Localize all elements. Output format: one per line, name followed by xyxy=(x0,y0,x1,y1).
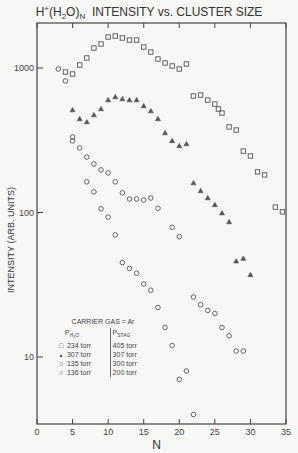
circle-marker xyxy=(213,311,218,316)
square-marker xyxy=(177,67,181,71)
legend-row: □ 234 torr 405 torr xyxy=(55,341,151,350)
legend-col-pstag: PSTAG xyxy=(110,328,151,341)
triangle-marker xyxy=(141,103,146,107)
triangle-marker-icon: ▲ xyxy=(57,352,65,358)
x-tick-label: 0 xyxy=(34,427,39,437)
circle-marker xyxy=(134,197,139,202)
legend-row: ▲ 307 torr 307 torr xyxy=(55,350,151,359)
circle-marker xyxy=(220,325,225,330)
square-marker xyxy=(156,57,160,61)
circle-marker xyxy=(127,197,132,202)
triangle-marker xyxy=(184,141,189,145)
triangle-marker xyxy=(134,97,139,101)
circle-marker xyxy=(198,302,203,307)
triangle-marker xyxy=(70,107,75,111)
circle-marker xyxy=(113,180,118,185)
circle-marker xyxy=(85,180,90,185)
square-marker xyxy=(92,46,96,50)
x-tick-label: 25 xyxy=(210,427,220,437)
circle-marker xyxy=(177,377,182,382)
triangle-marker xyxy=(120,96,125,100)
square-marker xyxy=(120,36,124,40)
triangle-marker xyxy=(106,97,111,101)
circle-marker xyxy=(141,282,146,287)
square-marker xyxy=(198,93,202,97)
square-marker xyxy=(206,98,210,102)
x-axis-label: N xyxy=(152,438,161,452)
circle-marker xyxy=(149,196,154,201)
triangle-marker xyxy=(205,195,210,199)
triangle-marker xyxy=(191,180,196,184)
square-marker xyxy=(191,94,195,98)
triangle-marker xyxy=(198,188,203,192)
triangle-marker xyxy=(248,272,253,276)
circle-marker-icon: ○ xyxy=(57,360,65,367)
legend-table: PH₂O PSTAG □ 234 torr 405 torr ▲ 307 tor… xyxy=(55,328,151,377)
x-tick-label: 30 xyxy=(245,427,255,437)
triangle-marker xyxy=(163,130,168,134)
circle-marker xyxy=(184,369,189,374)
x-tick-label: 10 xyxy=(103,427,113,437)
circle-marker xyxy=(170,225,175,230)
triangle-marker xyxy=(170,138,175,142)
circle-marker xyxy=(99,207,104,212)
circle-marker xyxy=(106,171,111,176)
square-marker xyxy=(99,42,103,46)
square-marker xyxy=(85,56,89,60)
y-tick-label: 100 xyxy=(19,208,34,218)
circle-marker xyxy=(205,308,210,313)
triangle-marker xyxy=(212,202,217,206)
square-marker xyxy=(255,170,259,174)
circle-marker xyxy=(134,271,139,276)
circle-marker xyxy=(92,162,97,167)
circle-marker xyxy=(177,234,182,239)
circle-marker xyxy=(149,288,154,293)
triangle-marker xyxy=(77,116,82,120)
y-axis-label: INTENSITY (ARB. UNITS) xyxy=(6,187,16,293)
circle-marker xyxy=(227,334,232,339)
square-marker xyxy=(142,45,146,49)
circle-marker xyxy=(156,206,161,211)
circle-marker xyxy=(191,412,196,417)
square-marker xyxy=(184,62,188,66)
circle-marker xyxy=(156,305,161,310)
triangle-marker xyxy=(84,119,89,123)
x-tick-label: 35 xyxy=(281,427,291,437)
square-marker xyxy=(106,35,110,39)
legend: CARRIER GAS = Ar PH₂O PSTAG □ 234 torr 4… xyxy=(55,318,151,377)
triangle-marker xyxy=(241,256,246,260)
axes: 05101520253035101001000NINTENSITY (ARB. … xyxy=(6,23,291,452)
circle-marker xyxy=(141,198,146,203)
x-tick-label: 15 xyxy=(139,427,149,437)
square-marker xyxy=(273,205,277,209)
circle-marker xyxy=(92,190,97,195)
square-marker xyxy=(163,61,167,65)
circle-marker xyxy=(241,349,246,354)
square-marker xyxy=(248,154,252,158)
circle-marker xyxy=(191,295,196,300)
circle-marker xyxy=(170,343,175,348)
square-marker-icon: □ xyxy=(57,342,65,349)
y-tick-label: 1000 xyxy=(14,63,34,73)
triangle-marker xyxy=(219,211,224,215)
circle-marker-icon: ○ xyxy=(57,369,65,376)
circle-marker xyxy=(127,266,132,271)
triangle-marker xyxy=(155,116,160,120)
y-tick-label: 10 xyxy=(24,352,34,362)
square-marker xyxy=(280,210,284,214)
x-tick-label: 20 xyxy=(174,427,184,437)
triangle-marker xyxy=(127,97,132,101)
square-marker xyxy=(234,128,238,132)
x-tick-label: 5 xyxy=(70,427,75,437)
square-marker xyxy=(213,102,217,106)
triangle-marker xyxy=(177,143,182,147)
triangle-marker xyxy=(113,94,118,98)
square-marker xyxy=(227,125,231,129)
circle-marker xyxy=(106,215,111,220)
circle-marker xyxy=(120,260,125,265)
square-marker xyxy=(134,38,138,42)
circle-marker xyxy=(163,325,168,330)
square-marker xyxy=(113,34,117,38)
legend-carrier-gas: CARRIER GAS = Ar xyxy=(55,318,151,325)
legend-col-ph2o: PH₂O xyxy=(55,328,110,341)
